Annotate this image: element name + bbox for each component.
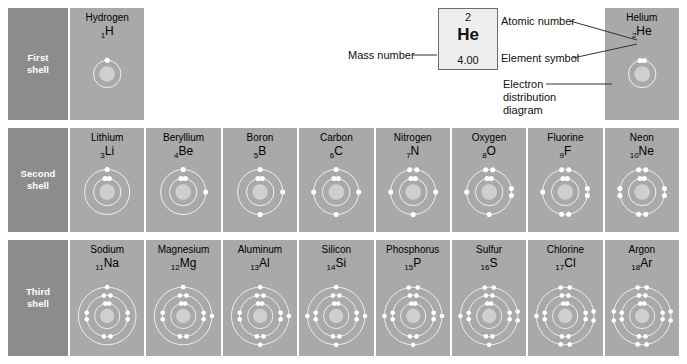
empty-cell [146,8,220,120]
electron-distribution-diagram [376,156,450,228]
element-name: Oxygen [452,132,526,144]
callout-atomic-number: 2 [439,11,497,23]
shell-label-line1: Second [21,168,56,179]
element-name: Boron [223,132,297,144]
element-cells-row-second: Lithium3LiBeryllium4BeBoron5BCarbon6CNit… [70,128,679,232]
callout-mass-number: 4.00 [439,54,497,66]
electron-distribution-diagram [299,156,373,228]
element-atomic-number: 12 [171,263,180,272]
electron-distribution-diagram [223,280,297,352]
element-name: Sodium [70,244,144,256]
shell-label-first: First shell [8,8,68,120]
element-name: Fluorine [528,132,602,144]
element-cell-o[interactable]: Oxygen8O [452,128,526,232]
element-symbol-text: P [413,256,421,270]
element-cell-si[interactable]: Silicon14Si [299,240,373,356]
element-cell-li[interactable]: Lithium3Li [70,128,144,232]
element-atomic-number: 13 [250,263,259,272]
electron-distribution-diagram [223,156,297,228]
element-name: Hydrogen [70,12,144,24]
element-cell-p[interactable]: Phosphorus15P [376,240,450,356]
annotation-ed-line1: Electron [503,78,543,90]
element-symbol-text: S [490,256,498,270]
element-name: Chlorine [528,244,602,256]
element-symbol-text: Al [259,256,270,270]
element-atomic-number: 18 [631,263,640,272]
electron-distribution-diagram [376,280,450,352]
element-name: Magnesium [146,244,220,256]
element-cell-ar[interactable]: Argon18Ar [605,240,679,356]
element-symbol: 13Al [223,257,297,274]
element-symbol-text: Na [104,256,119,270]
callout-element-symbol: He [439,25,497,45]
element-atomic-number: 17 [555,263,564,272]
electron-distribution-diagram [605,156,679,228]
element-symbol: 11Na [70,257,144,274]
annotation-ed-line2: distribution [503,91,556,103]
shell-label-line1: First [27,52,48,63]
electron-distribution-diagram [528,280,602,352]
element-cell-cl[interactable]: Chlorine17Cl [528,240,602,356]
electron-distribution-diagram [452,156,526,228]
shell-label-line2: shell [27,298,49,309]
electron-distribution-diagram [70,156,144,228]
electron-distribution-diagram [146,280,220,352]
element-cell-s[interactable]: Sulfur16S [452,240,526,356]
annotation-element-symbol: Element symbol [501,52,579,65]
element-name: Carbon [299,132,373,144]
shell-label-line1: Third [26,286,50,297]
electron-distribution-diagram [70,280,144,352]
helium-callout-box: 2 He 4.00 [438,8,498,70]
annotation-atomic-number: Atomic number [501,15,575,28]
element-symbol: 16S [452,257,526,274]
element-cell-h[interactable]: Hydrogen1H [70,8,144,120]
element-cell-b[interactable]: Boron5B [223,128,297,232]
element-symbol: 1H [70,25,144,42]
element-symbol-text: Cl [564,256,575,270]
annotation-mass-number: Mass number [348,49,415,62]
element-cell-al[interactable]: Aluminum13Al [223,240,297,356]
element-name: Lithium [70,132,144,144]
element-cell-ne[interactable]: Neon10Ne [605,128,679,232]
electron-distribution-diagram [70,42,144,106]
element-cell-mg[interactable]: Magnesium12Mg [146,240,220,356]
electron-distribution-diagram [146,156,220,228]
shell-label-second: Second shell [8,128,68,232]
element-cells-row-third: Sodium11NaMagnesium12MgAluminum13AlSilic… [70,240,679,356]
electron-distribution-diagram [299,280,373,352]
empty-cell [299,8,373,120]
element-cell-na[interactable]: Sodium11Na [70,240,144,356]
element-symbol: 14Si [299,257,373,274]
element-cell-n[interactable]: Nitrogen7N [376,128,450,232]
electron-distribution-diagram [605,280,679,352]
element-cell-he[interactable]: Helium2He [605,8,679,120]
element-name: Neon [605,132,679,144]
electron-distribution-diagram [452,280,526,352]
element-symbol-text: H [105,24,114,38]
annotation-ed-line3: diagram [503,104,543,116]
shell-label-line2: shell [27,180,49,191]
element-cell-f[interactable]: Fluorine9F [528,128,602,232]
element-symbol-text: He [636,24,651,38]
element-symbol: 15P [376,257,450,274]
element-symbol-text: Si [335,256,346,270]
element-name: Aluminum [223,244,297,256]
shell-row-second: Second shell Lithium3LiBeryllium4BeBoron… [8,128,679,232]
annotation-electron-distribution: Electron distribution diagram [503,78,556,117]
element-symbol-text: Ar [640,256,652,270]
element-name: Nitrogen [376,132,450,144]
element-name: Silicon [299,244,373,256]
element-symbol: 2He [605,25,679,42]
shell-row-third: Third shell Sodium11NaMagnesium12MgAlumi… [8,240,679,356]
shell-label-third: Third shell [8,240,68,356]
element-cells-row-first: Hydrogen1HHelium2He [70,8,679,120]
empty-cell [223,8,297,120]
element-symbol-text: Mg [180,256,197,270]
element-symbol: 12Mg [146,257,220,274]
element-cell-c[interactable]: Carbon6C [299,128,373,232]
element-atomic-number: 15 [404,263,413,272]
element-cell-be[interactable]: Beryllium4Be [146,128,220,232]
element-name: Phosphorus [376,244,450,256]
shell-label-line2: shell [27,64,49,75]
element-symbol: 18Ar [605,257,679,274]
